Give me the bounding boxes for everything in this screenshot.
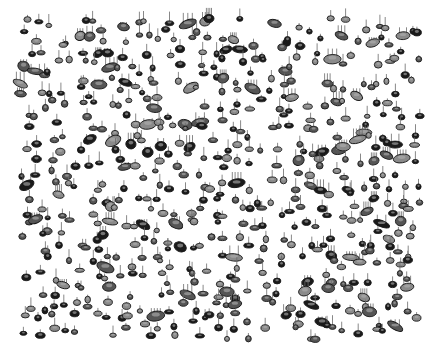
peak-spot: [240, 200, 246, 211]
peak-spot: [250, 218, 260, 230]
peak-spot: [307, 27, 313, 34]
peak-spot: [341, 107, 350, 121]
peak-spot: [199, 42, 207, 55]
peak-spot: [200, 99, 209, 109]
peak-spot: [335, 140, 350, 152]
peak-spot: [410, 137, 420, 147]
peak-spot: [122, 302, 130, 310]
peak-spot: [380, 166, 385, 178]
peak-spot: [66, 51, 72, 63]
peak-spot: [340, 211, 348, 220]
peak-spot: [303, 102, 312, 110]
peak-spot: [83, 26, 96, 42]
peak-spot: [291, 178, 300, 193]
peak-spot: [123, 37, 128, 44]
peak-spot: [244, 317, 251, 325]
peak-spot: [140, 88, 145, 95]
peak-spot: [403, 181, 409, 190]
peak-spot: [379, 31, 384, 40]
peak-spot: [324, 49, 342, 65]
peak-spot: [154, 112, 164, 126]
peak-spot: [214, 42, 219, 57]
peak-spot: [23, 207, 32, 218]
peak-spot: [332, 300, 340, 309]
peak-spot: [244, 237, 254, 248]
peak-spot: [218, 211, 227, 219]
peak-spot: [297, 136, 303, 148]
peak-spot: [122, 215, 131, 229]
peak-spot: [14, 88, 26, 98]
peak-spot: [333, 162, 341, 174]
peak-spot: [321, 97, 329, 109]
peak-spot: [122, 323, 131, 330]
peak-spot: [46, 14, 52, 28]
peak-spot: [131, 82, 140, 89]
peak-spot: [102, 212, 119, 226]
peak-spot: [195, 327, 204, 338]
peak-spot: [60, 295, 67, 308]
peak-spot: [287, 235, 295, 248]
peak-spot: [306, 113, 316, 123]
peak-spot: [347, 211, 356, 223]
peak-spot: [128, 258, 136, 270]
peak-spot: [373, 97, 380, 106]
peak-spot: [412, 151, 418, 164]
peak-spot: [273, 287, 279, 297]
peak-spot: [179, 169, 188, 178]
peak-spot: [230, 318, 237, 332]
peak-spot: [219, 35, 226, 41]
peak-spot: [225, 139, 232, 153]
peak-spot: [95, 259, 115, 275]
peak-spot: [254, 195, 260, 207]
peak-spot: [227, 32, 240, 45]
peak-spot: [222, 153, 231, 162]
peak-spot: [155, 138, 167, 151]
peak-spot: [89, 210, 98, 217]
peak-spot: [146, 308, 165, 322]
peak-spot: [276, 117, 281, 129]
peak-spot: [260, 244, 267, 252]
peak-spot: [147, 23, 153, 38]
peak-spot: [164, 275, 169, 285]
peak-spot: [178, 13, 198, 31]
peak-spot: [175, 135, 184, 146]
peak-spot: [82, 133, 98, 146]
peak-spot: [172, 240, 188, 254]
peak-spot: [317, 200, 327, 212]
peak-spot: [205, 182, 215, 192]
peak-spot: [218, 175, 225, 186]
peak-spot: [233, 133, 242, 148]
peak-spot: [350, 200, 359, 209]
peak-spot: [42, 306, 48, 314]
peak-spot: [384, 74, 389, 85]
peak-spot: [138, 247, 146, 261]
peak-spot: [323, 268, 330, 277]
peak-spot: [73, 297, 80, 306]
peak-spot: [97, 226, 109, 240]
peak-spot: [115, 101, 121, 108]
peak-spot: [410, 220, 416, 230]
peak-spot: [159, 287, 164, 297]
peak-spot: [56, 236, 63, 249]
peak-spot: [401, 190, 408, 204]
peak-spot: [233, 78, 238, 86]
peak-spot: [243, 80, 262, 97]
peak-spot: [261, 318, 270, 332]
peak-spot: [101, 48, 114, 57]
peak-spot: [123, 311, 133, 319]
peak-spot: [141, 146, 154, 158]
peak-spot: [365, 37, 381, 49]
peak-spot: [301, 275, 314, 287]
peak-spot: [245, 105, 255, 111]
peak-spot: [373, 215, 391, 230]
peak-spot: [110, 326, 117, 338]
peak-spot: [75, 264, 85, 273]
peak-spot: [227, 172, 245, 189]
peak-spot: [123, 111, 130, 119]
peak-spot: [236, 230, 243, 240]
peak-spot: [217, 311, 223, 319]
peak-spot: [348, 231, 355, 237]
peak-spot: [361, 77, 366, 87]
peak-spot: [292, 222, 298, 230]
peak-spot: [152, 86, 162, 100]
